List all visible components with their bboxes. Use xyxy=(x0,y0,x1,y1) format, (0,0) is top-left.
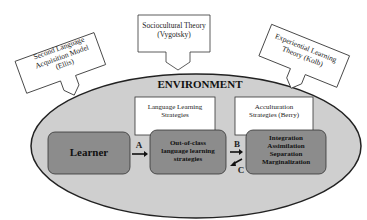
out-of-class-label: Out-of-class language learning strategie… xyxy=(150,139,226,163)
node-line: language learning xyxy=(150,147,226,155)
learner-label: Learner xyxy=(48,146,130,159)
acculturation-item: Separation xyxy=(246,150,326,158)
arrow-a-label: A xyxy=(134,140,144,150)
theory-line: (Vygotsky) xyxy=(138,31,210,40)
strategy-line: Strategies xyxy=(135,111,215,119)
acculturation-item: Assimilation xyxy=(246,142,326,150)
acculturation-node-label: Integration Assimilation Separation Marg… xyxy=(246,134,326,166)
arrow-c-label: C xyxy=(236,165,246,175)
node-line: Out-of-class xyxy=(150,139,226,147)
acculturation-strategies-label: Acculturation Strategies (Berry) xyxy=(235,103,313,119)
strategy-line: Language Learning xyxy=(135,103,215,111)
environment-label: ENVIRONMENT xyxy=(150,78,250,91)
acculturation-item: Integration xyxy=(246,134,326,142)
language-learning-strategies-label: Language Learning Strategies xyxy=(135,103,215,119)
node-line: strategies xyxy=(150,155,226,163)
acculturation-item: Marginalization xyxy=(246,158,326,166)
strategy-line: Acculturation xyxy=(235,103,313,111)
strategy-line: Strategies (Berry) xyxy=(235,111,313,119)
arrow-b-label: B xyxy=(232,139,242,149)
theory-label-vygotsky: Sociocultural Theory (Vygotsky) xyxy=(138,22,210,39)
